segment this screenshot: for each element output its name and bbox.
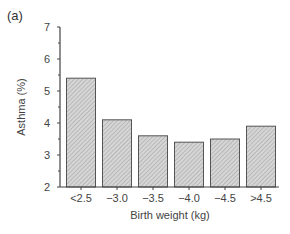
x-tick-label: −3.0	[106, 192, 128, 204]
bar-3	[175, 142, 204, 187]
y-axis: 234567	[44, 21, 60, 193]
x-tick-label: >4.5	[250, 192, 272, 204]
bars	[67, 78, 276, 187]
y-tick-label: 6	[44, 53, 50, 65]
bar-0	[67, 78, 96, 187]
y-tick-label: 7	[44, 21, 50, 33]
bar-1	[103, 120, 132, 187]
y-tick-label: 3	[44, 149, 50, 161]
x-tick-label: −4.5	[214, 192, 236, 204]
x-axis: <2.5−3.0−3.5−4.0−4.5>4.5	[60, 187, 279, 204]
bar-5	[247, 126, 276, 187]
y-tick-label: 5	[44, 85, 50, 97]
y-tick-label: 4	[44, 117, 50, 129]
y-axis-title: Asthma (%)	[15, 78, 27, 135]
x-tick-label: −4.0	[178, 192, 200, 204]
x-axis-title: Birth weight (kg)	[130, 209, 209, 221]
x-tick-label: <2.5	[70, 192, 92, 204]
y-tick-label: 2	[44, 181, 50, 193]
bar-chart: 234567 <2.5−3.0−3.5−4.0−4.5>4.5 Asthma (…	[0, 0, 290, 234]
bar-4	[211, 139, 240, 187]
x-tick-label: −3.5	[142, 192, 164, 204]
bar-2	[139, 136, 168, 187]
